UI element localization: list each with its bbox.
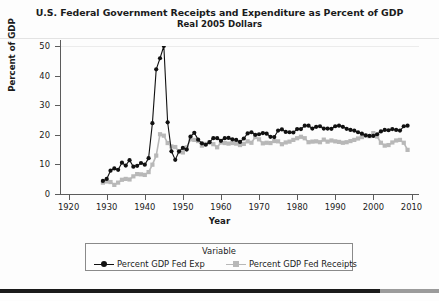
y-label-50-wrap: 50: [20, 42, 50, 50]
x-tick-1970: [259, 195, 260, 200]
plot-area: [61, 46, 419, 194]
y-label-40-wrap: 40: [20, 72, 50, 80]
y-axis-label-40: 40: [24, 72, 50, 80]
series-canvas: [61, 46, 419, 194]
legend-item-fed-exp[interactable]: Percent GDP Fed Exp: [94, 258, 205, 270]
chart-subtitle: Real 2005 Dollars: [0, 19, 439, 30]
x-tick-1980: [297, 195, 298, 200]
x-axis-line: [60, 194, 419, 195]
y-axis-title: Percent of GDP: [7, 0, 17, 115]
x-tick-1960: [221, 195, 222, 200]
y-axis-label-30: 30: [24, 101, 50, 109]
y-tick-30: [55, 105, 60, 106]
legend-marker-square-icon: [226, 259, 246, 269]
y-tick-40: [55, 76, 60, 77]
y-tick-10: [55, 164, 60, 165]
y-label-0-wrap: 0: [20, 190, 50, 198]
x-tick-1990: [335, 195, 336, 200]
x-tick-1940: [145, 195, 146, 200]
legend-label-fed-receipts: Percent GDP Fed Receipts: [249, 259, 357, 269]
legend-label-fed-exp: Percent GDP Fed Exp: [117, 259, 205, 269]
y-label-10-wrap: 10: [20, 160, 50, 168]
chart-title: U.S. Federal Government Receipts and Exp…: [0, 7, 439, 19]
legend: Variable Percent GDP Fed Exp Percent GDP…: [85, 243, 353, 271]
top-divider: [0, 38, 439, 39]
y-axis-label-50: 50: [24, 42, 50, 50]
x-tick-2000: [373, 195, 374, 200]
bottom-bar: [0, 289, 439, 293]
x-axis-label-2000: 2000: [353, 202, 393, 212]
y-label-20-wrap: 20: [20, 131, 50, 139]
bottom-bar-fade: [380, 289, 439, 293]
x-tick-1920: [69, 195, 70, 200]
legend-title: Variable: [86, 246, 352, 256]
x-axis-label-1990: 1990: [315, 202, 355, 212]
x-axis-label-1970: 1970: [239, 202, 279, 212]
x-axis-label-1930: 1930: [87, 202, 127, 212]
series-fed-exp: [101, 46, 410, 183]
y-axis-label-0: 0: [24, 190, 50, 198]
y-tick-50: [55, 46, 60, 47]
legend-marker-circle-icon: [94, 259, 114, 269]
legend-item-fed-receipts[interactable]: Percent GDP Fed Receipts: [226, 258, 357, 270]
chart-screenshot: U.S. Federal Government Receipts and Exp…: [0, 0, 439, 301]
x-axis-label-2010: 2010: [392, 202, 432, 212]
x-tick-1930: [107, 195, 108, 200]
y-axis-label-10: 10: [24, 160, 50, 168]
x-tick-1950: [183, 195, 184, 200]
chart-card: U.S. Federal Government Receipts and Exp…: [0, 0, 439, 288]
x-axis-label-1980: 1980: [277, 202, 317, 212]
y-tick-0: [55, 194, 60, 195]
x-axis-title: Year: [0, 216, 439, 226]
x-axis-label-1950: 1950: [163, 202, 203, 212]
chart-title-block: U.S. Federal Government Receipts and Exp…: [0, 7, 439, 30]
y-axis-label-20: 20: [24, 131, 50, 139]
x-tick-2010: [412, 195, 413, 200]
x-axis-label-1920: 1920: [49, 202, 89, 212]
x-axis-label-1960: 1960: [201, 202, 241, 212]
x-axis-label-1940: 1940: [125, 202, 165, 212]
y-label-30-wrap: 30: [20, 101, 50, 109]
y-tick-20: [55, 135, 60, 136]
